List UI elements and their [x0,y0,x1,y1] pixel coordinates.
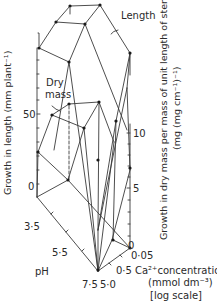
right-axis-title-line2: (mg (mg cm⁻¹)⁻¹) [171,66,182,150]
left-axis-tick-50: 50 [23,109,36,120]
ca-axis-title-line3: [log scale] [150,290,202,301]
right-axis-tick-10: 10 [133,128,146,139]
ca-axis-ticks [109,255,122,265]
ph-axis-ticks [51,212,84,251]
dry-mass-label-line1: Dry [46,77,64,88]
3d-wireframe-diagram [0,0,217,305]
ca-tick-0-5: 0·5 [116,265,132,276]
ca-axis-title-line2: (mmol dm⁻³) [148,277,213,288]
right-axis-tick-5: 5 [133,183,139,194]
ph-tick-3-5: 3·5 [24,221,40,232]
length-label: Length [121,10,156,21]
ph-tick-7-5: 7·5 [82,279,98,290]
ca-tick-0-05: 0·05 [131,250,153,261]
dry-mass-label-line2: mass [45,89,71,100]
ph-tick-5-5: 5·5 [52,247,68,258]
left-axis-tick-0: 0 [28,181,34,192]
dry-mass-pointer [52,106,60,111]
right-axis-title-line1: Growth in dry mass per mass of unit leng… [158,0,169,240]
ph-axis-title: pH [35,266,49,277]
ca-tick-5-0: 5·0 [100,279,116,290]
left-axis-title: Growth in length (mm plant⁻¹) [2,51,13,195]
ca-axis-title-line1: Ca²⁺concentration [135,265,217,276]
